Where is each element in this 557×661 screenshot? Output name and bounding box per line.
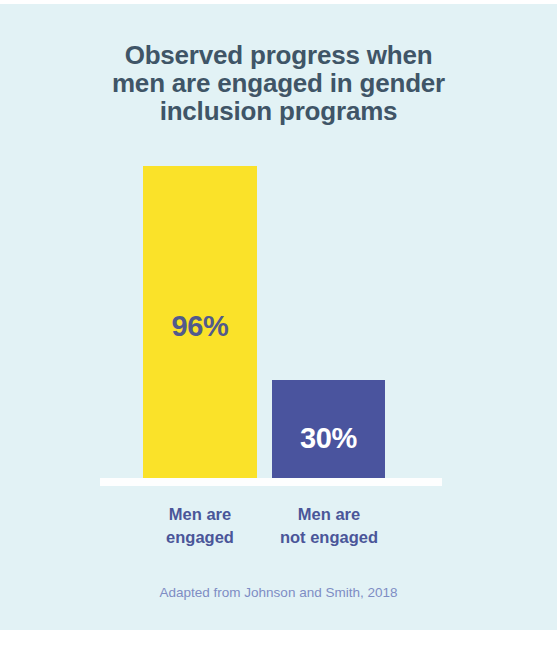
chart-figure: Observed progress when men are engaged i… [0, 0, 557, 661]
plot-area: 96% 30% Men are engaged Men are not enga… [0, 0, 557, 661]
category-label-men-are-not-engaged: Men are not engaged [258, 503, 400, 549]
bar-value-men-are-not-engaged: 30% [272, 422, 385, 455]
source-caption: Adapted from Johnson and Smith, 2018 [0, 585, 557, 600]
axis-baseline [100, 478, 442, 486]
category-label-men-are-engaged: Men are engaged [130, 503, 270, 549]
bar-men-are-not-engaged[interactable]: 30% [272, 380, 385, 478]
bar-value-men-are-engaged: 96% [143, 310, 257, 343]
bar-men-are-engaged[interactable]: 96% [143, 166, 257, 478]
